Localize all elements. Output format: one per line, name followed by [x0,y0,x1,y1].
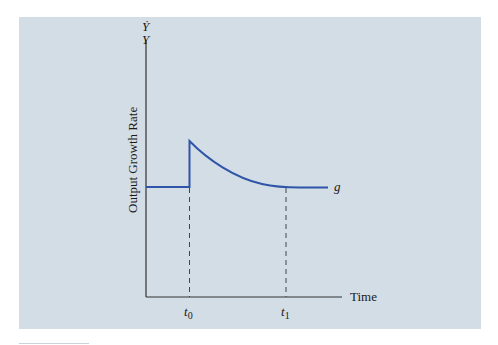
x-axis-title: Time [350,289,377,304]
y-axis-title: Output Growth Rate [125,107,140,213]
growth-rate-curve [146,141,328,188]
growth-rate-chart: Ẏ Y Output Growth Rate Time t0 t1 g [0,0,498,345]
tick-t0: t0 [184,304,193,321]
g-label: g [334,179,341,194]
tick-t1: t1 [281,304,290,321]
footer-rule [19,343,89,344]
y-symbol-bottom: Y [142,32,151,47]
